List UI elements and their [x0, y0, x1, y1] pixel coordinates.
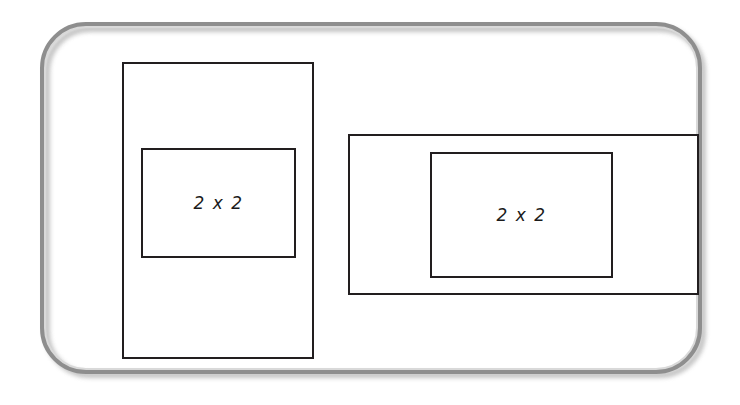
- left-inner-rectangle-label: 2 x 2: [141, 148, 296, 258]
- diagram-canvas: 2 x 2 2 x 2: [0, 0, 740, 405]
- right-inner-rectangle-label: 2 x 2: [430, 152, 613, 278]
